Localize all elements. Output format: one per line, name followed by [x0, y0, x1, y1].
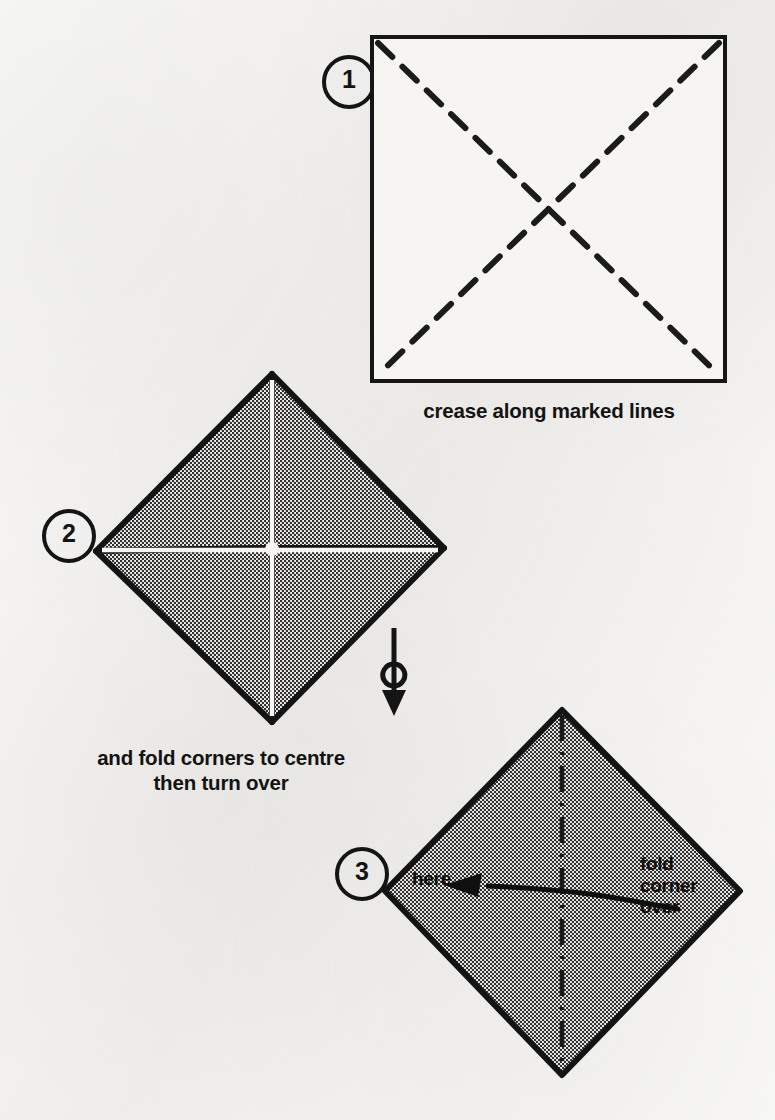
quadrant-bottom-left	[96, 548, 272, 722]
step-3-here-label: here	[412, 868, 451, 890]
quadrant-top-left	[96, 374, 272, 551]
step-1-crease-lines	[374, 39, 723, 379]
step-3-fold-corner-over-label: fold corner over	[640, 853, 697, 918]
instruction-sheet: 1 crease along marked lines 2	[0, 0, 775, 1120]
step-1-badge: 1	[322, 55, 376, 109]
step-2-caption: and fold corners to centre then turn ove…	[56, 745, 386, 795]
seam-centre-point	[265, 542, 279, 556]
step-1-square-sheet	[370, 35, 727, 383]
quadrant-top-right	[272, 374, 444, 548]
